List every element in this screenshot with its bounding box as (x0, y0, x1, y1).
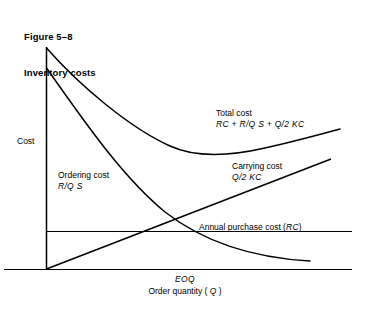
total-cost-formula: RC + R/Q S + Q/2 KC (216, 119, 304, 130)
total-cost-label-text: Total cost (216, 108, 304, 119)
annual-purchase-cost-label-text: Annual purchase cost ( (199, 222, 286, 232)
eoq-axis-marker: EOQ (0, 274, 370, 284)
annual-purchase-cost-formula: RC (286, 222, 299, 232)
carrying-cost-formula: Q/2 KC (232, 172, 282, 183)
carrying-cost-label-text: Carrying cost (232, 161, 282, 172)
ordering-cost-label-text: Ordering cost (58, 170, 109, 181)
x-axis-label-suffix: ) (216, 286, 221, 296)
annual-purchase-cost-label-suffix: ) (299, 222, 302, 232)
carrying-cost-label: Carrying cost Q/2 KC (232, 161, 282, 183)
x-axis-label-prefix: Order quantity ( (148, 286, 209, 296)
annual-purchase-cost-label: Annual purchase cost (RC) (199, 222, 302, 233)
inventory-cost-chart (0, 0, 370, 315)
figure-container: Figure 5–8 Inventory costs Cost Total co… (0, 0, 370, 315)
y-axis-label: Cost (17, 136, 34, 147)
x-axis-label: Order quantity ( Q ) (0, 286, 370, 296)
ordering-cost-formula: R/Q S (58, 181, 109, 192)
total-cost-curve (47, 48, 341, 155)
ordering-cost-label: Ordering cost R/Q S (58, 170, 109, 192)
total-cost-label: Total cost RC + R/Q S + Q/2 KC (216, 108, 304, 130)
